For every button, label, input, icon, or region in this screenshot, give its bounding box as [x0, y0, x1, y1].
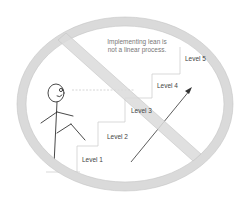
- level-2-label: Level 2: [107, 133, 128, 140]
- caption-line-2: not a linear process.: [92, 46, 182, 54]
- level-1-label: Level 1: [82, 156, 103, 163]
- level-4-label: Level 4: [157, 82, 178, 89]
- level-3-label: Level 3: [131, 107, 152, 114]
- caption-line-1: Implementing lean is: [92, 38, 182, 46]
- diagram-canvas: [0, 0, 248, 202]
- caption-text: Implementing lean is not a linear proces…: [92, 38, 182, 54]
- level-5-label: Level 5: [185, 55, 206, 62]
